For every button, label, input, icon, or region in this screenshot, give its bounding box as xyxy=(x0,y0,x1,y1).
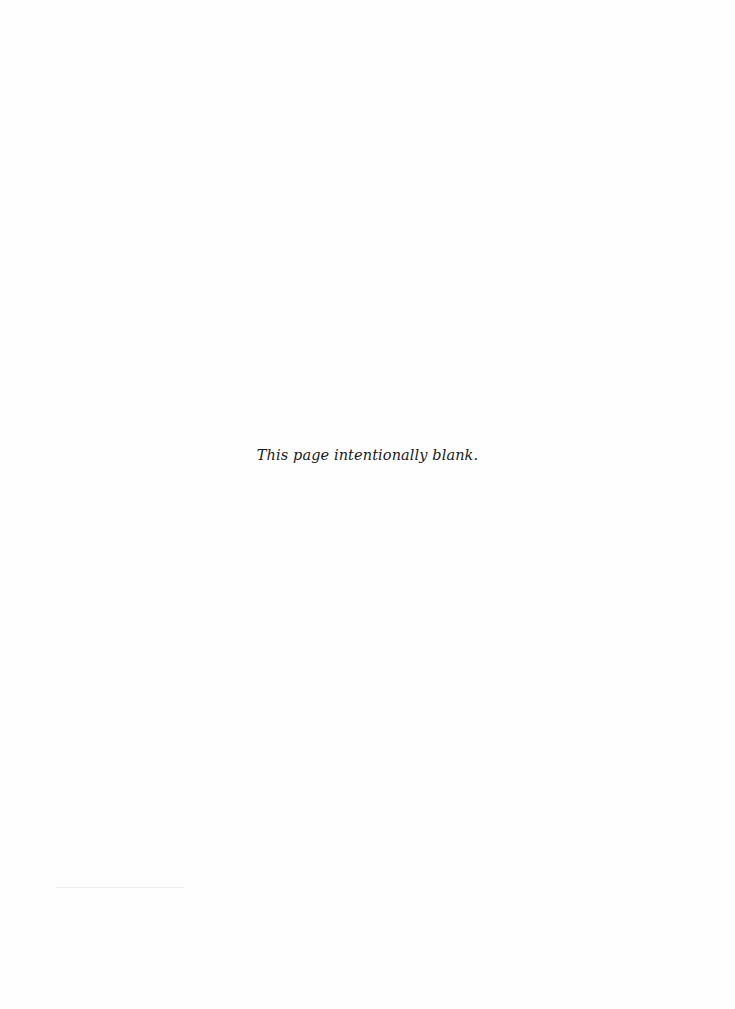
footnote-separator-rule xyxy=(56,887,184,888)
document-page: This page intentionally blank. xyxy=(0,0,735,1009)
blank-page-notice: This page intentionally blank. xyxy=(0,447,735,463)
